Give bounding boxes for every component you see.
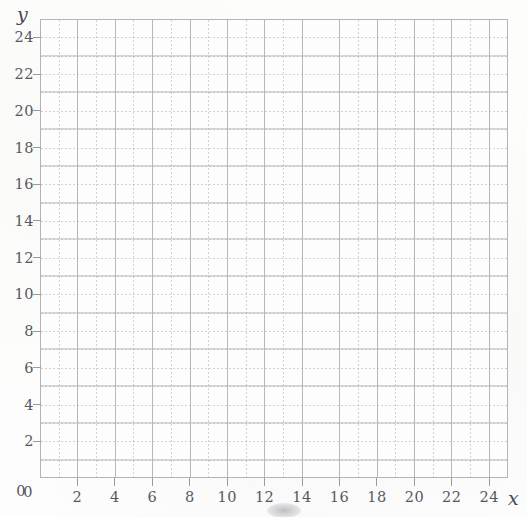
x-tick-mark — [489, 478, 490, 486]
grid-major-horizontal-lines — [41, 20, 507, 477]
y-tick-label: 20 — [15, 103, 34, 119]
y-tick-label: 22 — [15, 66, 34, 82]
y-tick-label: 2 — [24, 433, 34, 449]
y-tick-label: 16 — [15, 176, 34, 192]
x-tick-mark — [152, 478, 153, 486]
y-tick-label: 4 — [24, 397, 34, 413]
y-axis-label: y — [17, 3, 28, 25]
y-tick-label: 0 — [23, 484, 33, 500]
y-tick-label: 24 — [15, 29, 34, 45]
grid-major-vertical-lines — [41, 20, 507, 477]
x-tick-label: 2 — [73, 489, 83, 505]
plot-frame — [40, 19, 508, 478]
x-tick-label: 20 — [405, 489, 424, 505]
scan-smudge-artifact — [267, 503, 301, 517]
y-tick-label: 14 — [15, 213, 34, 229]
grid-minor-horizontal-lines — [41, 20, 507, 477]
x-axis-label: x — [508, 487, 519, 509]
top-cut-off-text — [72, 0, 322, 3]
y-tick-label: 10 — [15, 286, 34, 302]
x-tick-mark — [227, 478, 228, 486]
x-tick-label: 18 — [367, 489, 386, 505]
x-tick-mark — [451, 478, 452, 486]
x-tick-label: 4 — [110, 489, 120, 505]
y-tick-label: 18 — [15, 140, 34, 156]
x-tick-mark — [264, 478, 265, 486]
x-tick-mark — [114, 478, 115, 486]
x-tick-mark — [77, 478, 78, 486]
x-tick-label: 0 — [16, 483, 26, 499]
x-tick-label: 8 — [185, 489, 195, 505]
x-tick-label: 14 — [292, 489, 311, 505]
y-tick-label: 12 — [15, 250, 34, 266]
x-tick-mark — [302, 478, 303, 486]
grid-minor-vertical-lines — [41, 20, 507, 477]
graph-paper-page: 024681012141618202224 024681012141618202… — [0, 0, 527, 517]
x-tick-mark — [414, 478, 415, 486]
y-tick-label: 6 — [24, 360, 34, 376]
x-tick-label: 22 — [442, 489, 461, 505]
x-tick-label: 16 — [330, 489, 349, 505]
x-tick-mark — [376, 478, 377, 486]
x-tick-mark — [339, 478, 340, 486]
y-tick-label: 8 — [24, 323, 34, 339]
x-tick-label: 12 — [255, 489, 274, 505]
x-tick-label: 10 — [217, 489, 236, 505]
x-tick-label: 6 — [147, 489, 157, 505]
x-tick-mark — [189, 478, 190, 486]
x-tick-label: 24 — [480, 489, 499, 505]
